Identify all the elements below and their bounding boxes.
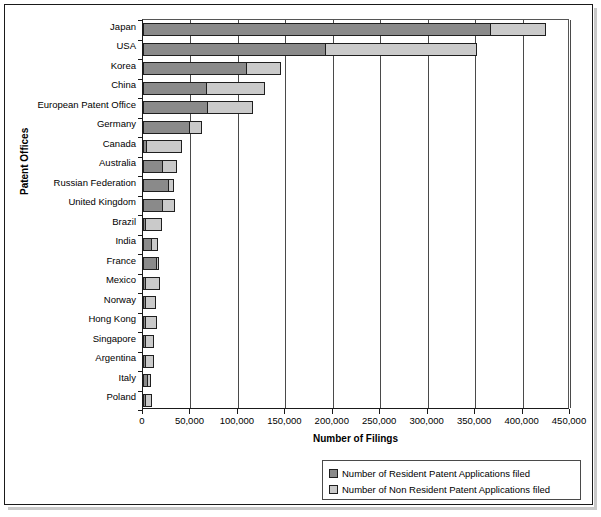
y-axis-label: Brazil <box>5 217 136 227</box>
y-axis-label: Korea <box>5 61 136 71</box>
bar-series-group <box>143 20 568 408</box>
frame-shadow-right <box>594 8 597 510</box>
x-axis-tick <box>569 409 570 414</box>
y-axis-tick <box>138 196 143 197</box>
legend-label-resident: Number of Resident Patent Applications f… <box>342 468 530 479</box>
y-axis-label: India <box>5 236 136 246</box>
bar-segment-nonresident <box>206 82 266 95</box>
legend-item-nonresident: Number of Non Resident Patent Applicatio… <box>329 481 574 497</box>
bar-segment-nonresident <box>490 23 546 36</box>
x-axis-tick <box>142 409 143 414</box>
bar-segment-nonresident <box>145 316 157 329</box>
bar-segment-nonresident <box>325 43 477 56</box>
bar-segment-nonresident <box>162 160 177 173</box>
bar-segment-nonresident <box>145 335 154 348</box>
bar-segment-resident <box>143 160 163 173</box>
y-axis-tick <box>138 235 143 236</box>
legend-item-resident: Number of Resident Patent Applications f… <box>329 465 574 481</box>
gridline <box>570 20 571 408</box>
y-axis-tick <box>138 274 143 275</box>
bar-segment-nonresident <box>246 62 281 75</box>
bar-segment-resident <box>143 82 207 95</box>
y-axis-label: China <box>5 80 136 90</box>
y-axis-label: Australia <box>5 158 136 168</box>
bar-row <box>143 374 151 387</box>
x-axis-label: 350,000 <box>457 415 491 426</box>
x-axis-title: Number of Filings <box>142 433 569 444</box>
y-axis-tick <box>138 20 143 21</box>
x-axis-label: 300,000 <box>409 415 443 426</box>
bar-segment-nonresident <box>162 199 175 212</box>
bar-segment-nonresident <box>151 238 159 251</box>
chart-page: Patent Offices JapanUSAKoreaChinaEuropea… <box>0 0 601 517</box>
x-axis-label: 400,000 <box>504 415 538 426</box>
bar-row <box>143 160 177 173</box>
bar-row <box>143 218 162 231</box>
legend-swatch-resident-icon <box>329 469 338 478</box>
bar-row <box>143 23 546 36</box>
x-axis-tick <box>522 409 523 414</box>
y-axis-label: Germany <box>5 119 136 129</box>
bar-segment-nonresident <box>156 257 159 270</box>
bar-segment-resident <box>143 43 326 56</box>
x-axis-tick <box>427 409 428 414</box>
chart-legend: Number of Resident Patent Applications f… <box>322 460 581 500</box>
bar-row <box>143 62 281 75</box>
y-axis-label: France <box>5 256 136 266</box>
y-axis-label: USA <box>5 41 136 51</box>
x-axis-tick <box>284 409 285 414</box>
y-axis-label: Japan <box>5 22 136 32</box>
y-axis-tick <box>138 40 143 41</box>
bar-segment-nonresident <box>145 394 152 407</box>
bar-row <box>143 316 157 329</box>
x-axis-label: 0 <box>139 415 144 426</box>
bar-segment-nonresident <box>145 296 156 309</box>
y-axis-label: Mexico <box>5 275 136 285</box>
bar-row <box>143 355 154 368</box>
x-axis-label: 100,000 <box>220 415 254 426</box>
legend-label-nonresident: Number of Non Resident Patent Applicatio… <box>342 484 550 495</box>
y-axis-tick <box>138 137 143 138</box>
legend-swatch-nonresident-icon <box>329 485 338 494</box>
x-axis-label: 200,000 <box>315 415 349 426</box>
x-axis-label: 450,000 <box>552 415 586 426</box>
x-axis-tick <box>474 409 475 414</box>
y-axis-label: Singapore <box>5 334 136 344</box>
y-axis-label: Poland <box>5 392 136 402</box>
y-axis-tick <box>138 352 143 353</box>
bar-row <box>143 394 152 407</box>
plot-area <box>142 19 569 409</box>
bar-row <box>143 82 265 95</box>
x-axis-tick <box>379 409 380 414</box>
frame-shadow-bottom <box>8 507 597 510</box>
bar-segment-nonresident <box>145 218 162 231</box>
bar-row <box>143 199 175 212</box>
bar-row <box>143 140 182 153</box>
x-axis-tick <box>237 409 238 414</box>
y-axis-tick <box>138 157 143 158</box>
bar-row <box>143 238 158 251</box>
y-axis-tick <box>138 254 143 255</box>
bar-segment-resident <box>143 179 169 192</box>
x-axis-label: 250,000 <box>362 415 396 426</box>
bar-row <box>143 335 154 348</box>
y-axis-label: Canada <box>5 139 136 149</box>
y-axis-label: Russian Federation <box>5 178 136 188</box>
y-axis-label: Italy <box>5 373 136 383</box>
bar-segment-nonresident <box>145 277 160 290</box>
y-axis-tick <box>138 98 143 99</box>
y-axis-label: United Kingdom <box>5 197 136 207</box>
chart-frame: Patent Offices JapanUSAKoreaChinaEuropea… <box>4 4 593 505</box>
bar-row <box>143 296 156 309</box>
bar-segment-resident <box>143 199 163 212</box>
bar-segment-resident <box>143 101 208 114</box>
bar-segment-nonresident <box>168 179 175 192</box>
bar-row <box>143 277 160 290</box>
bar-segment-resident <box>143 23 491 36</box>
bar-row <box>143 257 159 270</box>
x-axis-label: 150,000 <box>267 415 301 426</box>
y-axis-label: Hong Kong <box>5 314 136 324</box>
y-axis-tick <box>138 371 143 372</box>
bar-row <box>143 121 202 134</box>
y-axis-tick <box>138 59 143 60</box>
